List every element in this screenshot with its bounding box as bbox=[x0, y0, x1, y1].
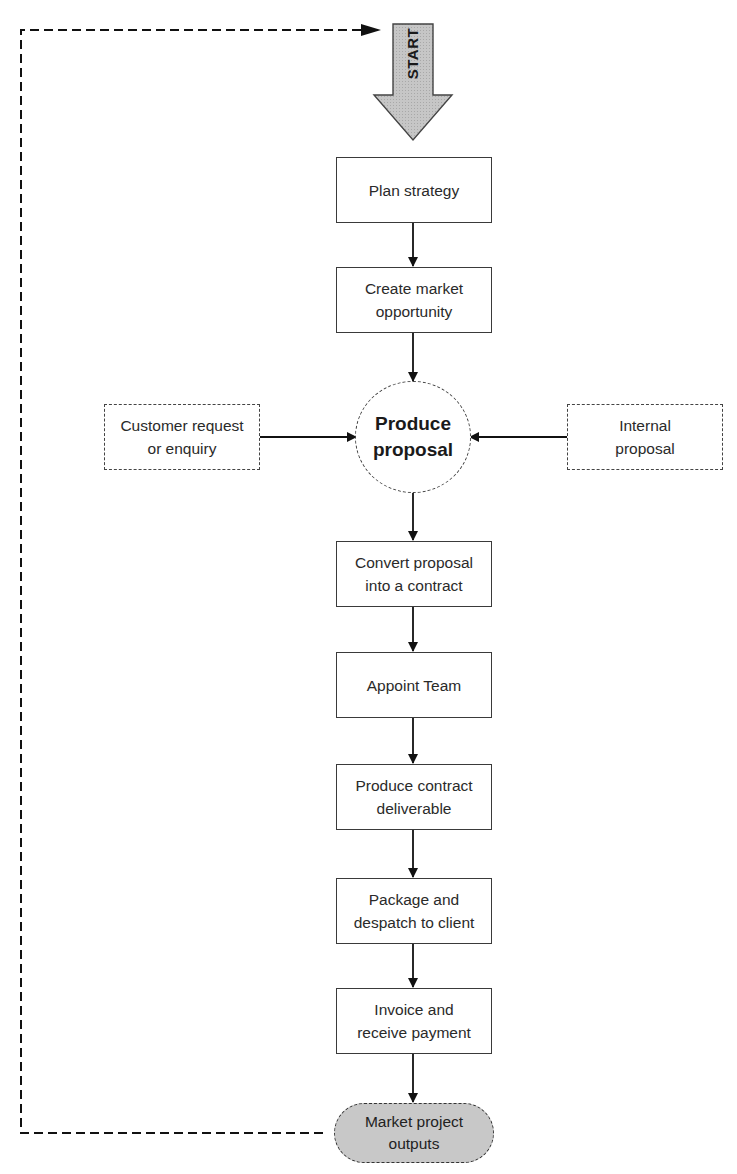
feedback-loop-line bbox=[21, 30, 380, 1133]
hub-produce-proposal: Produce proposal bbox=[355, 381, 471, 493]
input-customer-request: Customer request or enquiry bbox=[104, 404, 260, 470]
step-package-despatch: Package and despatch to client bbox=[336, 878, 492, 944]
step-appoint-team: Appoint Team bbox=[336, 652, 492, 718]
step-produce-deliverable: Produce contract deliverable bbox=[336, 764, 492, 830]
step-invoice-payment: Invoice and receive payment bbox=[336, 988, 492, 1054]
step-plan-strategy: Plan strategy bbox=[336, 157, 492, 223]
step-convert-proposal: Convert proposal into a contract bbox=[336, 541, 492, 607]
end-market-project-outputs: Market project outputs bbox=[334, 1103, 494, 1163]
step-create-market-opportunity: Create market opportunity bbox=[336, 267, 492, 333]
start-label: START bbox=[389, 20, 437, 86]
input-internal-proposal: Internal proposal bbox=[567, 404, 723, 470]
